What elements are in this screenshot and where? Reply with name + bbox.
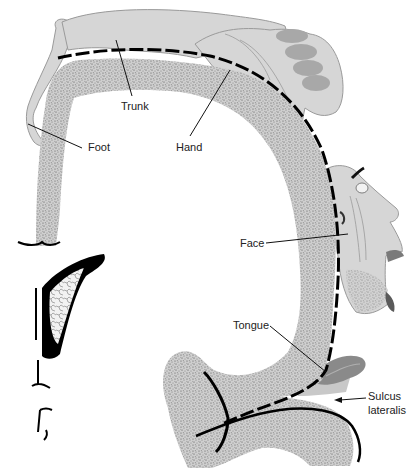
label-trunk: Trunk [121,100,149,113]
label-face: Face [240,237,264,250]
homunculus-diagram: Trunk Foot Hand Face Tongue Sulcus later… [0,0,420,472]
sulcus-arrowhead [334,397,342,403]
medial-line-2 [32,360,50,388]
label-sulcus-line1: Sulcus [368,390,401,403]
label-tongue: Tongue [233,319,269,332]
medial-section [32,254,105,440]
label-sulcus-line2: lateralis [368,404,406,417]
mouth-lower [385,292,394,312]
fingertip-2 [285,44,317,60]
diagram-drawing [0,0,420,472]
label-foot: Foot [88,141,110,154]
eye [356,183,368,193]
fingertip-1 [276,29,308,43]
fingertip-3 [293,60,323,76]
label-hand: Hand [176,141,202,154]
fingertip-4 [302,75,330,91]
medial-line-3 [38,409,52,441]
sulcus-leader [340,398,366,400]
